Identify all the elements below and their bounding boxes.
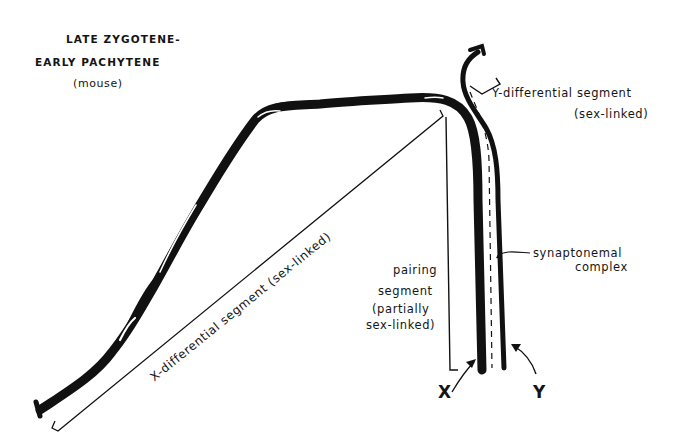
y-arrow xyxy=(514,346,536,374)
x-chromosome xyxy=(36,96,482,416)
title-line-1: LATE ZYGOTENE- xyxy=(66,34,181,45)
pairing-label-2: segment xyxy=(378,286,433,298)
y-differential-label-1: Y-differential segment xyxy=(492,88,632,100)
synaptonemal-label-1: synaptonemal xyxy=(533,248,622,260)
synaptonemal-label-2: complex xyxy=(575,262,628,274)
pairing-segment-bracket xyxy=(446,117,458,370)
y-differential-label-2: (sex-linked) xyxy=(574,109,648,121)
y-arrowhead-icon xyxy=(511,344,521,352)
x-differential-bracket xyxy=(52,110,443,431)
pairing-label-4: sex-linked) xyxy=(366,320,435,332)
synaptonemal-pointer xyxy=(498,252,530,256)
y-chromosome-label: Y xyxy=(533,384,545,401)
title-line-3: (mouse) xyxy=(73,78,123,89)
x-chromosome-label: X xyxy=(438,384,451,401)
title-line-2: EARLY PACHYTENE xyxy=(35,57,160,68)
pairing-label-3: (partially xyxy=(372,304,430,316)
pairing-label-1: pairing xyxy=(393,265,437,277)
x-arrowhead-icon xyxy=(466,359,476,368)
